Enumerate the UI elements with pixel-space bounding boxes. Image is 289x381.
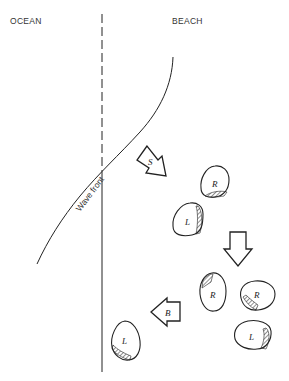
stone-label: L	[184, 217, 190, 227]
stone-label: L	[248, 332, 254, 342]
stone-l-2: L	[173, 203, 203, 236]
stone-l-5: L	[235, 320, 272, 349]
beach-label: BEACH	[172, 16, 203, 26]
stone-label: L	[121, 336, 127, 346]
stone-r-4: R	[241, 281, 275, 310]
stone-label: R	[253, 290, 260, 300]
ocean-label: OCEAN	[10, 16, 42, 26]
beach-diagram: OCEAN BEACH Wave front S R L R R	[0, 0, 289, 381]
backwash-arrow: B	[151, 298, 180, 326]
swash-arrow-label: S	[148, 157, 153, 167]
swash-arrow: S	[137, 146, 166, 176]
stone-label: R	[211, 179, 218, 189]
transition-arrow	[224, 232, 252, 266]
stone-l-6: L	[112, 321, 141, 360]
stone-label: R	[209, 290, 216, 300]
stone-r-3: R	[200, 273, 226, 311]
stone-r-1: R	[201, 166, 229, 197]
backwash-arrow-label: B	[165, 308, 171, 318]
